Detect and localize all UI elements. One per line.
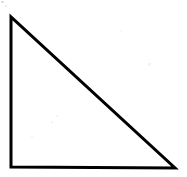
figure-canvas [0,0,187,177]
paper-background [0,0,187,177]
triangle-diagram [0,0,187,177]
